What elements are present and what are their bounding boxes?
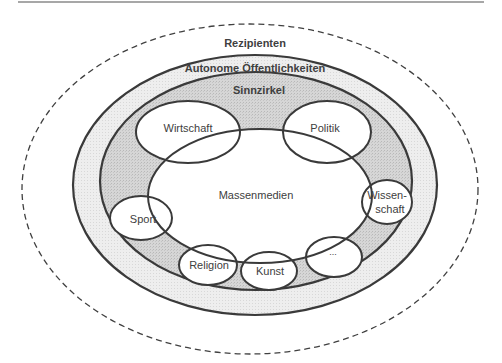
label-sinnzirkel: Sinnzirkel [233,84,285,96]
label-rezipienten: Rezipienten [224,37,286,49]
label-kunst: Kunst [256,265,284,277]
label-religion: Religion [189,259,229,271]
label-autonome-oeffentlichkeiten: Autonome Öffentlichkeiten [185,62,326,74]
label-wissenschaft-line1: Wissen- [367,189,407,201]
label-more: ... [329,247,337,257]
label-wissenschaft-line2: schaft [375,203,404,215]
label-wirtschaft: Wirtschaft [164,122,213,134]
label-sport: Sport [130,213,156,225]
label-massenmedien: Massenmedien [219,189,294,201]
label-politik: Politik [310,122,340,134]
diagram-canvas: Rezipienten Autonome Öffentlichkeiten Si… [0,0,502,363]
